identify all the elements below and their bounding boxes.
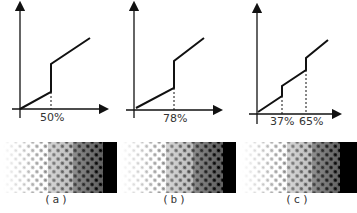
caption-c: (c)	[285, 193, 311, 206]
halftone-strip-b	[121, 142, 236, 193]
halftone-strip-c	[242, 142, 357, 193]
caption-a: (a)	[44, 193, 70, 206]
threshold-label-2: 65%	[299, 116, 323, 127]
threshold-label-1: 37%	[270, 116, 294, 127]
response-curve	[20, 38, 90, 109]
caption-b: (b)	[162, 193, 188, 206]
response-curve	[258, 40, 328, 112]
threshold-label: 50%	[40, 112, 64, 123]
graph-c	[237, 0, 357, 130]
response-curve	[136, 38, 204, 108]
threshold-label: 78%	[163, 113, 187, 124]
halftone-strip-a	[3, 142, 117, 193]
graph-b	[120, 0, 240, 130]
